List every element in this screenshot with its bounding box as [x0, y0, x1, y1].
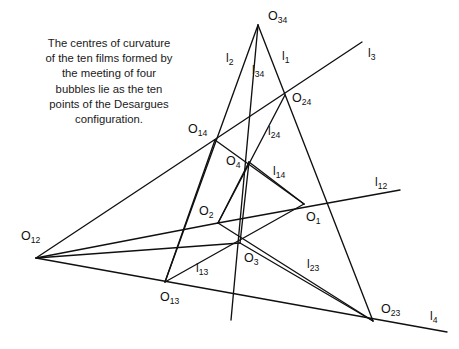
diagram-line — [165, 204, 304, 282]
label-l24: l24 — [268, 124, 280, 140]
label-l4: l4 — [430, 309, 438, 325]
diagram-line — [218, 223, 373, 321]
label-l12: l12 — [375, 175, 387, 191]
label-l13: l13 — [196, 261, 208, 277]
desargues-diagram: O34O24O14O4O2O1O3O12O13O23 l1l2l34l3l12l… — [0, 0, 459, 349]
point-labels: O34O24O14O4O2O1O3O12O13O23 — [21, 9, 401, 318]
label-l3: l3 — [368, 46, 376, 62]
desargues-figure: The centres of curvature of the ten film… — [0, 0, 459, 349]
diagram-line — [240, 243, 373, 321]
label-l2: l2 — [226, 51, 234, 67]
label-O24: O24 — [292, 91, 312, 107]
diagram-segments — [36, 25, 447, 332]
label-l34: l34 — [252, 63, 264, 79]
label-O23: O23 — [381, 302, 401, 318]
label-O2: O2 — [199, 204, 214, 220]
line-labels: l1l2l34l3l12l4l24l14l13l23 — [196, 46, 438, 325]
label-l1: l1 — [282, 49, 290, 65]
diagram-line — [215, 140, 304, 204]
diagram-line — [218, 162, 249, 223]
label-l14: l14 — [273, 164, 285, 180]
label-O34: O34 — [268, 9, 288, 25]
label-O1: O1 — [306, 210, 321, 226]
diagram-line — [36, 258, 447, 332]
label-O14: O14 — [188, 122, 208, 138]
label-l23: l23 — [307, 257, 319, 273]
diagram-line — [36, 243, 240, 258]
label-O12: O12 — [21, 229, 41, 245]
label-O13: O13 — [160, 290, 180, 306]
diagram-line — [36, 42, 362, 258]
